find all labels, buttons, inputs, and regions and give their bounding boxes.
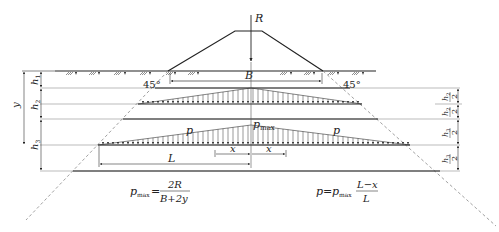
- spread-lines-45deg: [26, 71, 496, 226]
- load-diagram-lower: p p pmax: [98, 118, 410, 145]
- label-h2: h2: [29, 100, 41, 110]
- layer-lines: [40, 88, 460, 171]
- ground-surface: [55, 71, 376, 75]
- svg-text:2: 2: [450, 109, 459, 114]
- label-b: B: [244, 69, 253, 82]
- formula-p: p = pmax L−x L: [316, 179, 378, 204]
- embankment: [168, 31, 323, 71]
- label-h1: h1: [29, 75, 41, 85]
- svg-text:L−x: L−x: [356, 179, 378, 190]
- stress-distribution-diagram: R: [0, 0, 499, 232]
- dimension-l: L: [99, 146, 250, 167]
- label-h3: h3: [29, 140, 41, 150]
- svg-text:pmax: pmax: [332, 185, 352, 198]
- svg-text:=: =: [323, 185, 332, 198]
- label-pmax: pmax: [253, 118, 275, 132]
- svg-text:2R: 2R: [167, 179, 182, 190]
- label-p-left: p: [186, 124, 193, 137]
- right-fraction-labels: h2 2 h2 2 h3 2 h3 2: [441, 92, 459, 164]
- svg-text:2: 2: [450, 94, 459, 99]
- svg-text:B+2y: B+2y: [159, 193, 188, 204]
- label-x-right: x: [266, 143, 272, 154]
- load-diagram-upper: [138, 88, 362, 104]
- label-r: R: [254, 12, 263, 25]
- svg-text:L: L: [362, 193, 370, 204]
- label-l: L: [167, 152, 175, 165]
- svg-text:=: =: [151, 185, 160, 198]
- label-y: y: [10, 102, 21, 109]
- load-arrow-r: R: [251, 12, 263, 61]
- svg-text:pmax: pmax: [130, 185, 150, 198]
- svg-text:2: 2: [450, 130, 459, 135]
- label-x-left: x: [230, 143, 236, 154]
- svg-text:2: 2: [450, 156, 459, 161]
- label-p-right: p: [333, 124, 340, 137]
- formula-pmax: pmax = 2R B+2y: [130, 179, 190, 204]
- svg-text:p: p: [316, 185, 323, 198]
